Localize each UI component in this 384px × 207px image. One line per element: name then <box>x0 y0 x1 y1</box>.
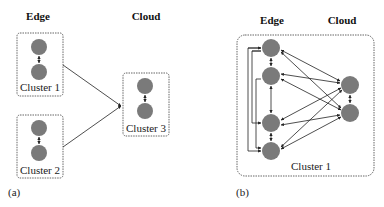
cluster-label: Cluster 3 <box>126 122 167 134</box>
connection-c1-c3 <box>63 65 121 106</box>
cluster-2-a: Cluster 2 <box>17 115 63 178</box>
node <box>31 145 47 161</box>
edge-node <box>262 39 280 57</box>
cluster-label: Cluster 2 <box>20 164 60 176</box>
cloud-node <box>341 76 359 94</box>
panel-a: Edge Cloud Cluster 1 Cluster 2 Cluster 3 <box>8 10 169 199</box>
cluster-1-a: Cluster 1 <box>17 33 63 96</box>
edge-header-b: Edge <box>260 14 284 26</box>
diagram-canvas: Edge Cloud Cluster 1 Cluster 2 Cluster 3 <box>0 0 384 207</box>
node <box>137 78 153 94</box>
cluster-3-a: Cluster 3 <box>123 73 169 136</box>
panel-b: Edge Cloud Cluster 1 (b) <box>236 14 374 199</box>
node <box>31 64 47 80</box>
edge-node <box>262 114 280 132</box>
node <box>137 103 153 119</box>
caption-a: (a) <box>8 186 21 199</box>
cloud-node <box>341 104 359 122</box>
cluster-label-b: Cluster 1 <box>291 160 331 172</box>
caption-b: (b) <box>236 186 249 199</box>
cloud-header-a: Cloud <box>132 10 161 22</box>
node <box>31 39 47 55</box>
connection-c2-c3 <box>63 106 121 147</box>
edge-node <box>262 142 280 160</box>
cloud-header-b: Cloud <box>328 14 357 26</box>
edge-node <box>262 67 280 85</box>
edge-header-a: Edge <box>26 10 50 22</box>
node <box>31 120 47 136</box>
cluster-label: Cluster 1 <box>20 81 60 93</box>
